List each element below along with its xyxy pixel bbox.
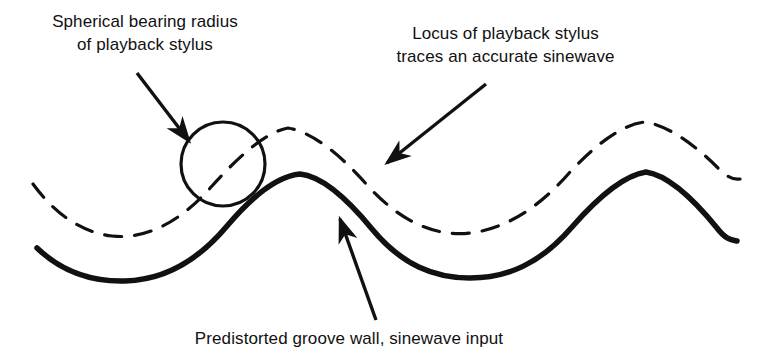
label-line-1: Predistorted groove wall, sinewave input xyxy=(132,327,566,350)
leader-arrow-stylus-locus xyxy=(387,84,486,163)
label-line-1: Spherical bearing radius xyxy=(38,10,252,33)
stylus-bearing-circle xyxy=(181,122,265,206)
leader-arrow-groove-wall xyxy=(340,219,376,320)
playback-stylus-locus-curve xyxy=(33,122,740,237)
label-line-2: traces an accurate sinewave xyxy=(383,45,628,68)
diagram-canvas: Spherical bearing radius of playback sty… xyxy=(0,0,764,356)
label-line-1: Locus of playback stylus xyxy=(383,22,628,45)
label-spherical-bearing-radius: Spherical bearing radius of playback sty… xyxy=(38,10,252,56)
leader-arrow-stylus-radius xyxy=(137,73,189,141)
label-locus-of-playback-stylus: Locus of playback stylus traces an accur… xyxy=(383,22,628,68)
label-line-2: of playback stylus xyxy=(38,33,252,56)
predistorted-groove-wall-curve xyxy=(37,172,737,281)
label-predistorted-groove-wall: Predistorted groove wall, sinewave input xyxy=(132,327,566,350)
